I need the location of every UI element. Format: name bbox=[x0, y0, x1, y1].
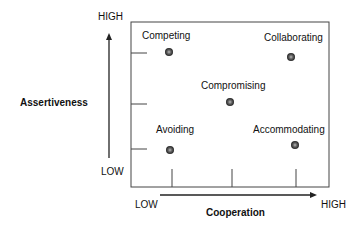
label-avoiding: Avoiding bbox=[156, 124, 194, 135]
label-collaborating: Collaborating bbox=[264, 32, 323, 43]
y-high-label: HIGH bbox=[98, 11, 123, 22]
point-collaborating bbox=[287, 53, 295, 61]
label-competing: Competing bbox=[142, 30, 190, 41]
x-axis-title: Cooperation bbox=[206, 207, 265, 218]
y-low-label: LOW bbox=[101, 166, 124, 177]
y-axis-title: Assertiveness bbox=[20, 97, 88, 108]
x-high-label: HIGH bbox=[321, 199, 346, 210]
x-arrowhead-icon bbox=[310, 192, 317, 198]
label-compromising: Compromising bbox=[201, 80, 265, 91]
label-accommodating: Accommodating bbox=[253, 124, 325, 135]
point-accommodating bbox=[291, 141, 299, 149]
point-compromising bbox=[226, 98, 234, 106]
y-arrowhead-icon bbox=[106, 33, 112, 40]
x-low-label: LOW bbox=[135, 199, 158, 210]
point-avoiding bbox=[166, 146, 174, 154]
point-competing bbox=[165, 48, 173, 56]
